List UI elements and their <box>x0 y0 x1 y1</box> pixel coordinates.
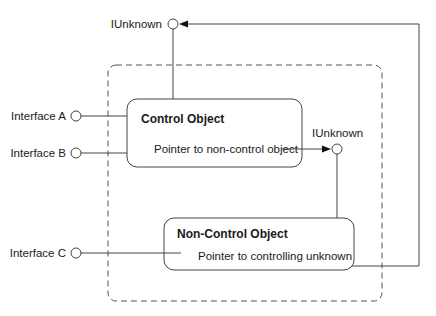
interface-b-lollipop <box>71 148 81 158</box>
non-control-object-title: Non-Control Object <box>177 227 288 241</box>
interface-c-label: Interface C <box>10 247 66 259</box>
interface-a-lollipop <box>71 111 81 121</box>
non-control-object-pointer-label: Pointer to controlling unknown <box>198 250 352 262</box>
top-iunknown-label: IUnknown <box>111 18 162 30</box>
interface-b-label: Interface B <box>10 147 66 159</box>
non-control-object-box <box>164 218 354 270</box>
middle-iunknown-label: IUnknown <box>312 127 363 139</box>
interface-c-lollipop <box>71 248 81 258</box>
middle-iunknown-lollipop <box>332 144 342 154</box>
control-object-title: Control Object <box>141 112 224 126</box>
arrowhead-icon <box>322 146 331 153</box>
control-object-pointer-label: Pointer to non-control object <box>154 143 299 155</box>
top-iunknown-lollipop <box>168 19 178 29</box>
arrowhead-icon <box>179 21 188 28</box>
control-object-box <box>127 99 302 167</box>
com-aggregation-diagram: IUnknown Control Object Pointer to non-c… <box>0 0 436 316</box>
interface-a-label: Interface A <box>11 110 66 122</box>
